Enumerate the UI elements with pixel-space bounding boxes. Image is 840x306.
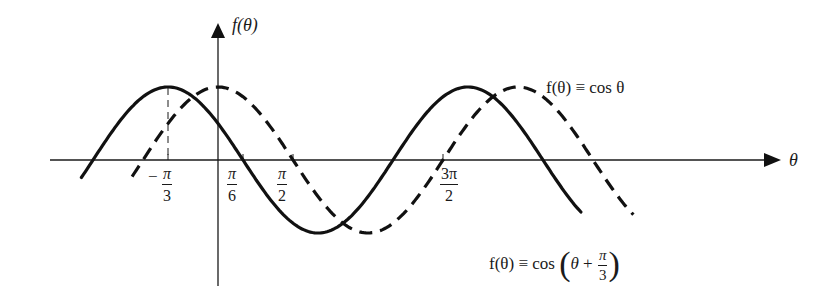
tick-label-pi-2: π 2 xyxy=(277,166,287,204)
legend-solid-theta: θ xyxy=(570,254,578,273)
legend-frac-num: π xyxy=(598,248,608,266)
tick-num: π xyxy=(227,166,237,185)
legend-solid-fraction: π 3 xyxy=(598,248,608,283)
y-axis-label: f(θ) xyxy=(232,16,258,34)
x-axis-arrow-icon xyxy=(764,153,781,167)
paren-close: ) xyxy=(608,245,619,282)
tick-num: π xyxy=(277,166,287,185)
tick-den: 6 xyxy=(227,185,237,204)
tick-num: π xyxy=(162,166,172,185)
legend-frac-den: 3 xyxy=(598,266,608,283)
y-axis-arrow-icon xyxy=(211,23,225,38)
cosine-phase-shift-plot xyxy=(0,0,840,306)
tick-label-neg-sign: − xyxy=(148,167,158,187)
tick-den: 2 xyxy=(440,185,458,204)
x-axis-label: θ xyxy=(789,151,798,169)
legend-solid-prefix: f(θ) ≡ cos xyxy=(489,254,555,273)
paren-open: ( xyxy=(559,245,570,282)
legend-solid-cos-theta-plus-pi-3: f(θ) ≡ cos (θ + π 3 ) xyxy=(489,248,620,283)
tick-label-pi-6: π 6 xyxy=(227,166,237,204)
legend-dashed-cos-theta: f(θ) ≡ cos θ xyxy=(546,79,624,96)
tick-den: 2 xyxy=(277,185,287,204)
tick-num: 3π xyxy=(440,166,458,185)
tick-label-neg-pi-3: π 3 xyxy=(162,166,172,204)
tick-label-3pi-2: 3π 2 xyxy=(440,166,458,204)
legend-solid-plus: + xyxy=(583,254,593,273)
tick-den: 3 xyxy=(162,185,172,204)
